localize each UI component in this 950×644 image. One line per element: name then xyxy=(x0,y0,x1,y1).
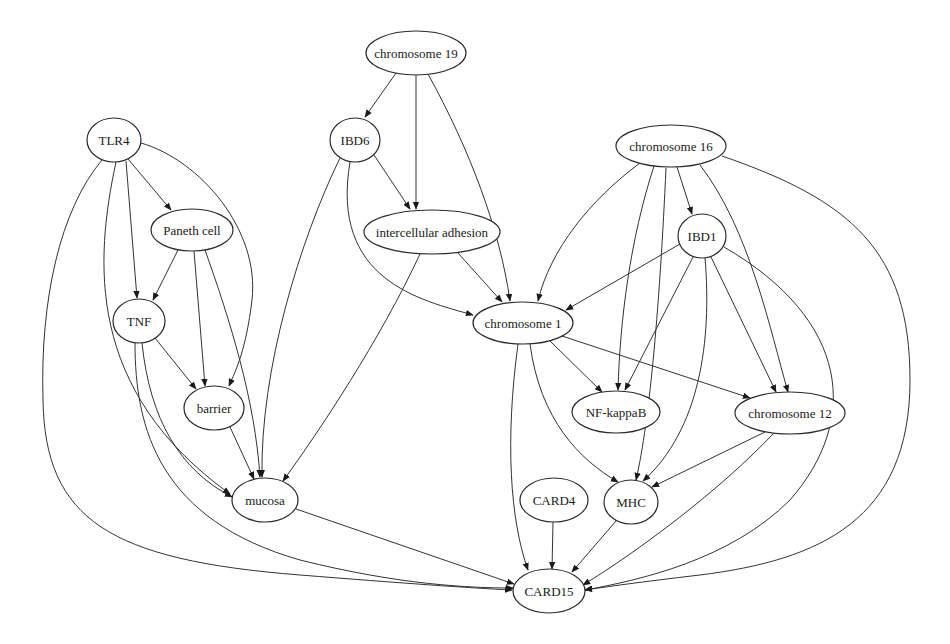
node-card15: CARD15 xyxy=(513,569,585,613)
node-label: barrier xyxy=(197,401,232,416)
node-label: TLR4 xyxy=(98,133,130,148)
edge-ibd1-to-nfkb xyxy=(625,257,693,390)
node-mhc: MHC xyxy=(604,480,658,524)
edge-chr16-to-chr12 xyxy=(700,165,788,392)
node-chr19: chromosome 19 xyxy=(366,31,466,75)
node-adhesion: intercellular adhesion xyxy=(364,210,500,254)
node-tlr4: TLR4 xyxy=(87,118,141,162)
node-label: IBD1 xyxy=(688,229,717,244)
node-nfkb: NF-kappaB xyxy=(572,391,660,433)
node-label: chromosome 19 xyxy=(374,46,457,61)
edge-mucosa-to-card15 xyxy=(296,509,514,584)
node-ibd6: IBD6 xyxy=(330,118,380,162)
edge-mhc-to-card15 xyxy=(572,521,616,572)
node-label: mucosa xyxy=(245,493,285,508)
edge-barrier-to-mucosa xyxy=(230,427,254,479)
edge-adhesion-to-chr1 xyxy=(458,253,502,302)
node-label: NF-kappaB xyxy=(586,405,647,420)
edge-chr1-to-nfkb xyxy=(550,341,602,392)
edge-chr1-to-chr12 xyxy=(562,336,750,398)
node-label: CARD15 xyxy=(524,584,573,599)
edge-ibd1-to-chr12 xyxy=(711,257,776,392)
edge-paneth-to-tnf xyxy=(153,250,178,300)
node-label: Paneth cell xyxy=(163,223,221,238)
node-chr16: chromosome 16 xyxy=(616,125,726,167)
edge-chr19-to-chr1 xyxy=(428,74,510,301)
node-ibd1: IBD1 xyxy=(678,214,726,258)
node-mucosa: mucosa xyxy=(232,478,298,522)
edge-paneth-to-barrier xyxy=(194,251,205,386)
edge-ibd6-to-mucosa xyxy=(262,158,340,477)
node-chr12: chromosome 12 xyxy=(735,392,845,434)
node-label: CARD4 xyxy=(533,493,576,508)
node-label: TNF xyxy=(127,314,152,329)
node-chr1: chromosome 1 xyxy=(473,302,573,344)
nodes-layer: chromosome 19TLR4IBD6chromosome 16Paneth… xyxy=(87,31,845,613)
node-barrier: barrier xyxy=(184,386,244,430)
edge-ibd1-to-chr1 xyxy=(566,244,680,310)
node-paneth: Paneth cell xyxy=(151,209,233,251)
node-card4: CARD4 xyxy=(520,478,588,522)
node-label: IBD6 xyxy=(341,133,370,148)
edge-tlr4-to-tnf xyxy=(126,161,137,298)
node-label: intercellular adhesion xyxy=(376,225,489,240)
node-label: chromosome 1 xyxy=(485,316,562,331)
edge-tlr4-to-barrier xyxy=(141,143,253,386)
node-label: MHC xyxy=(616,495,646,510)
edge-ibd6-to-adhesion xyxy=(374,155,410,209)
edge-tlr4-to-paneth xyxy=(128,159,171,210)
edge-chr16-to-ibd1 xyxy=(677,167,692,214)
edge-paneth-to-mucosa xyxy=(205,250,260,477)
node-label: chromosome 16 xyxy=(629,139,713,154)
edge-tnf-to-barrier xyxy=(155,338,196,389)
edge-chr16-to-chr1 xyxy=(538,163,640,301)
node-label: chromosome 12 xyxy=(748,406,831,421)
causal-graph: chromosome 19TLR4IBD6chromosome 16Paneth… xyxy=(0,0,950,644)
edge-card4-to-card15 xyxy=(552,522,553,569)
edge-chr19-to-ibd6 xyxy=(365,73,396,117)
edge-chr1-to-card15 xyxy=(511,344,528,570)
edge-tnf-to-card15 xyxy=(135,343,513,588)
node-tnf: TNF xyxy=(113,299,165,343)
